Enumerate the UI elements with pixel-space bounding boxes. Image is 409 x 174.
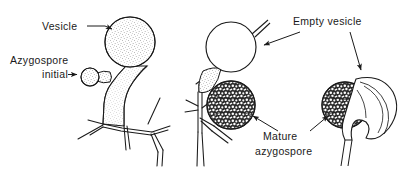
left-vesicle <box>105 17 155 67</box>
right-panel: Empty vesicle Mature azygospore <box>185 15 397 166</box>
leader-mature-a <box>253 116 278 131</box>
label-mature-azygospore-line1: Mature <box>263 130 297 142</box>
label-azygospore-initial-line1: Azygospore <box>10 54 68 66</box>
leader-mature-b <box>310 116 328 131</box>
figure-container: Vesicle Azygospore initial <box>0 0 409 174</box>
leader-empty-vesicle-a <box>264 32 300 45</box>
label-vesicle: Vesicle <box>42 20 77 32</box>
empty-vesicle-round <box>206 20 270 72</box>
left-panel: Vesicle Azygospore initial <box>10 17 170 166</box>
leader-vesicle <box>87 26 112 29</box>
label-azygospore-initial-line2: initial <box>42 68 68 80</box>
mature-azygospore-1 <box>207 81 255 129</box>
azygospore-diagram: Vesicle Azygospore initial <box>0 0 409 174</box>
label-mature-azygospore-line2: azygospore <box>255 145 312 157</box>
leader-empty-vesicle-b <box>350 32 361 70</box>
label-empty-vesicle: Empty vesicle <box>293 15 362 27</box>
azygospore-initial <box>81 68 99 86</box>
